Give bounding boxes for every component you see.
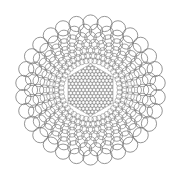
circle-pattern-figure <box>0 0 179 181</box>
figure-canvas: Circle packing pattern with hexagonal co… <box>0 0 179 181</box>
